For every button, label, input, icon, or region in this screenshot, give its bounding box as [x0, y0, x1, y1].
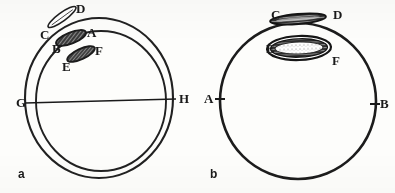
- figure-panel-b: C D E F A B b: [198, 0, 395, 193]
- panel-caption-b: b: [210, 168, 217, 180]
- oval-cd: [46, 4, 78, 31]
- label-f: F: [95, 44, 103, 57]
- figure-panel-a: D C A B F E G H a: [0, 0, 198, 193]
- label-b: B: [380, 97, 388, 110]
- panel-b-drawing: [198, 0, 395, 193]
- oval-ef: [267, 35, 332, 61]
- chord-line-gh: [25, 99, 176, 103]
- label-d: D: [333, 8, 342, 21]
- label-e: E: [266, 42, 274, 55]
- label-c: C: [271, 8, 280, 21]
- label-d: D: [76, 2, 85, 15]
- panel-a-drawing: [0, 0, 198, 193]
- panel-caption-a: a: [18, 168, 25, 180]
- label-a: A: [204, 92, 213, 105]
- label-h: H: [179, 92, 189, 105]
- figure-sheet: D C A B F E G H a: [0, 0, 395, 193]
- label-e: E: [62, 60, 70, 73]
- label-b: B: [52, 42, 60, 55]
- label-g: G: [16, 96, 26, 109]
- label-f: F: [332, 54, 340, 67]
- label-c: C: [40, 28, 49, 41]
- outer-circle: [25, 18, 173, 178]
- label-a: A: [87, 26, 96, 39]
